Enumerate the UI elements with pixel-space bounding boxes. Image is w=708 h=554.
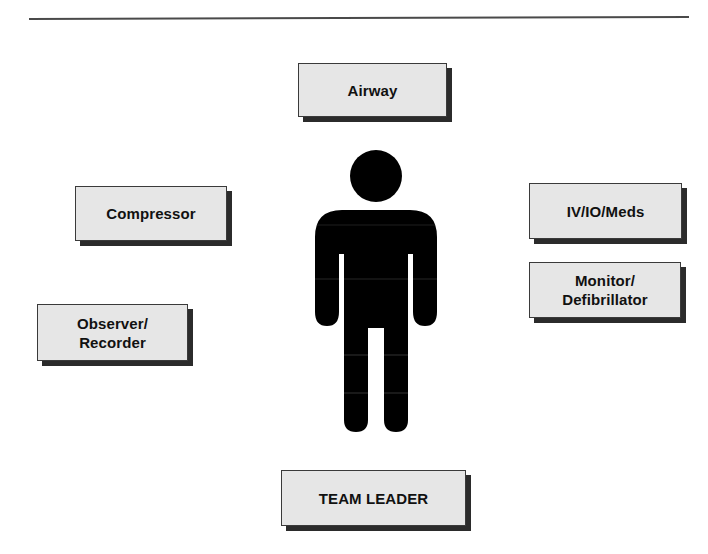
top-horizontal-rule (29, 16, 689, 20)
role-label-compressor: Compressor (106, 204, 195, 223)
role-box-iv-io-meds: IV/IO/Meds (529, 183, 682, 239)
role-label-iv-io-meds: IV/IO/Meds (567, 202, 645, 221)
role-box-airway: Airway (298, 63, 447, 117)
role-box-monitor-defibrillator: Monitor/ Defibrillator (529, 262, 681, 318)
role-label-monitor-defibrillator: Monitor/ Defibrillator (562, 271, 647, 309)
role-label-observer-recorder: Observer/ Recorder (77, 314, 148, 352)
person-icon (300, 140, 450, 440)
role-label-airway: Airway (348, 81, 398, 100)
role-box-compressor: Compressor (75, 186, 227, 241)
role-box-observer-recorder: Observer/ Recorder (37, 304, 188, 361)
role-label-team-leader: TEAM LEADER (319, 489, 428, 508)
role-box-team-leader: TEAM LEADER (281, 470, 466, 526)
